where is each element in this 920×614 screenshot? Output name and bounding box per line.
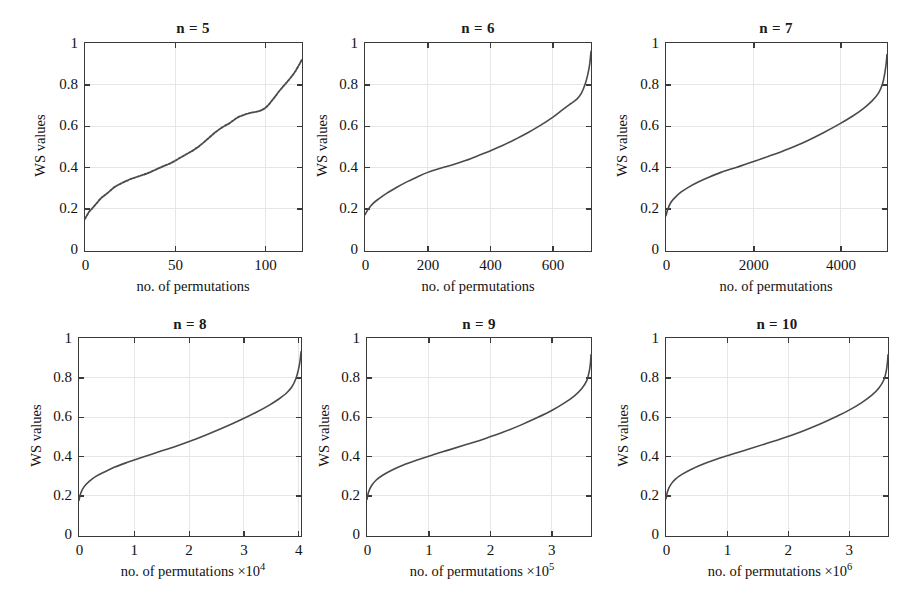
chart-panel-p6: n = 1000.20.40.60.810123WS valuesno. of …: [0, 0, 920, 614]
ytick-mark-right-p6-4: [883, 377, 888, 378]
ytick-label-p6-1: 0.2: [619, 487, 659, 504]
ytick-label-p6-0: 0: [619, 526, 659, 543]
x-axis-exponent-base-p6: ×10: [824, 563, 847, 579]
gridline-h-p6-4: [666, 377, 888, 378]
series-line-p6: [666, 338, 888, 536]
panel-title-p6: n = 10: [707, 316, 847, 333]
x-axis-exponent-power-p6: 6: [847, 561, 852, 572]
ytick-mark-right-p6-3: [883, 417, 888, 418]
xtick-mark-top-p6-1: [727, 338, 728, 343]
gridline-h-p6-3: [666, 417, 888, 418]
xtick-label-p6-3: 3: [819, 542, 879, 559]
ytick-mark-right-p6-2: [883, 456, 888, 457]
xtick-label-p6-1: 1: [697, 542, 757, 559]
gridline-v-p6-3: [849, 338, 850, 536]
figure-panel-grid: n = 500.20.40.60.81050100WS valuesno. of…: [0, 0, 920, 614]
ytick-label-p6-5: 1: [619, 330, 659, 347]
x-axis-title-text-p6: no. of permutations: [708, 563, 821, 579]
ytick-mark-p6-1: [666, 495, 671, 496]
x-axis-exponent-p6: ×106: [824, 563, 852, 579]
ytick-mark-p6-3: [666, 417, 671, 418]
gridline-h-p6-2: [666, 456, 888, 457]
plot-area-p6: [665, 337, 889, 537]
xtick-mark-top-p6-3: [849, 338, 850, 343]
xtick-mark-p6-1: [727, 531, 728, 536]
y-axis-title-p6: WS values: [615, 386, 632, 486]
gridline-h-p6-1: [666, 495, 888, 496]
ytick-mark-p6-4: [666, 377, 671, 378]
ytick-mark-p6-2: [666, 456, 671, 457]
xtick-mark-p6-3: [849, 531, 850, 536]
x-axis-title-p6: no. of permutations ×106: [660, 563, 900, 580]
xtick-mark-p6-2: [788, 531, 789, 536]
gridline-v-p6-1: [727, 338, 728, 536]
ytick-label-p6-4: 0.8: [619, 369, 659, 386]
ytick-mark-right-p6-1: [883, 495, 888, 496]
xtick-mark-top-p6-2: [788, 338, 789, 343]
xtick-label-p6-0: 0: [637, 542, 697, 559]
xtick-label-p6-2: 2: [758, 542, 818, 559]
gridline-v-p6-2: [788, 338, 789, 536]
